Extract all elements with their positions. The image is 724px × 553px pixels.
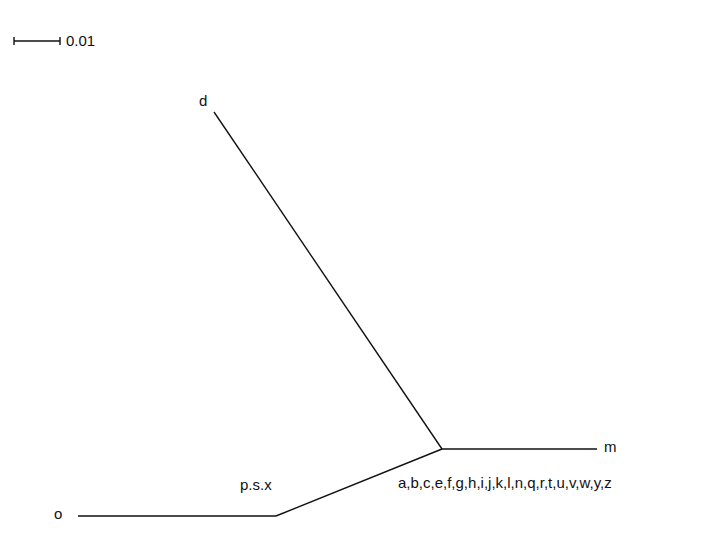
branch-d	[214, 112, 442, 449]
scale-bar-label: 0.01	[66, 33, 95, 48]
leaf-label-d: d	[199, 93, 207, 108]
tree-diagram	[0, 0, 724, 553]
leaf-label-o: o	[54, 506, 62, 521]
scale-bar	[14, 37, 60, 45]
group-label-rest: a,b,c,e,f,g,h,i,j,k,l,n,q,r,t,u,v,w,y,z	[398, 475, 612, 490]
group-label-psx: p.s.x	[240, 477, 272, 492]
tree-branches	[78, 112, 597, 516]
leaf-label-m: m	[604, 439, 617, 454]
